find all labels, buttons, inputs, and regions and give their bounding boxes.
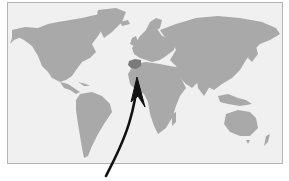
tasmania [246, 140, 250, 144]
madagascar [172, 112, 176, 126]
arrow-annotation [106, 77, 145, 176]
central-america [60, 82, 80, 94]
caribbean [78, 82, 90, 86]
scandinavia [146, 18, 162, 32]
southeast-asia-islands [218, 94, 252, 106]
south-america [76, 92, 112, 158]
land-masses [10, 8, 280, 158]
world-map [0, 0, 289, 181]
new-zealand [264, 134, 270, 146]
alaska [10, 28, 24, 44]
australia [224, 110, 258, 136]
